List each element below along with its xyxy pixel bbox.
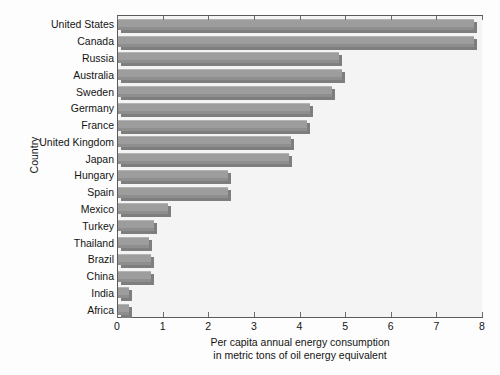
x-tick-mark-top: [391, 16, 392, 20]
bar: [118, 220, 154, 231]
bar: [118, 203, 168, 214]
y-axis-category-label: United Kingdom: [39, 136, 114, 148]
bar: [118, 187, 228, 198]
bar: [118, 271, 151, 282]
x-axis-title-line-1: Per capita annual energy consumption: [117, 336, 483, 349]
y-axis-category-label: Africa: [87, 304, 114, 316]
bar: [118, 120, 307, 131]
bar-shadow: [289, 156, 292, 167]
bar-shadow: [151, 257, 154, 268]
x-tick-mark: [254, 312, 255, 317]
bar-shadow: [121, 214, 170, 217]
y-axis-category-label: Mexico: [81, 203, 114, 215]
x-tick-label: 2: [196, 320, 220, 332]
bar-shadow: [121, 231, 156, 234]
bar: [118, 153, 289, 164]
x-tick-mark: [391, 312, 392, 317]
bar: [118, 170, 228, 181]
x-tick-label: 4: [288, 320, 312, 332]
x-tick-mark-top: [254, 16, 255, 20]
bar: [118, 69, 342, 80]
x-tick-mark-top: [345, 16, 346, 20]
x-tick-label: 6: [379, 320, 403, 332]
bar-shadow: [121, 282, 153, 285]
bar: [118, 86, 332, 97]
bar-shadow: [121, 131, 309, 134]
bar-shadow: [342, 72, 345, 83]
bar-shadow: [129, 307, 132, 318]
bar-shadow: [121, 164, 291, 167]
x-tick-mark: [163, 312, 164, 317]
x-tick-label: 0: [105, 320, 129, 332]
bar-shadow: [149, 240, 152, 251]
x-tick-mark: [436, 312, 437, 317]
bar-shadow: [339, 55, 342, 66]
x-tick-label: 8: [470, 320, 494, 332]
x-tick-label: 3: [242, 320, 266, 332]
bar-shadow: [151, 274, 154, 285]
y-axis-category-label: United States: [51, 18, 114, 30]
x-tick-mark: [117, 312, 118, 317]
y-axis-category-label: India: [91, 287, 114, 299]
bar-shadow: [168, 206, 171, 217]
bar-shadow: [129, 290, 132, 301]
bar-shadow: [474, 39, 477, 50]
bar-shadow: [121, 97, 334, 100]
x-tick-label: 5: [333, 320, 357, 332]
x-tick-mark: [300, 312, 301, 317]
x-axis-title-line-2: in metric tons of oil energy equivalent: [117, 349, 483, 362]
bar-shadow: [332, 89, 335, 100]
bar-shadow: [121, 265, 153, 268]
y-axis-category-label: Spain: [87, 186, 114, 198]
bar-shadow: [121, 248, 151, 251]
x-tick-mark-top: [300, 16, 301, 20]
bar-shadow: [310, 106, 313, 117]
x-tick-mark-top: [117, 16, 118, 20]
y-axis-title: Country: [28, 120, 42, 190]
bar: [118, 52, 339, 63]
bar-shadow: [121, 80, 344, 83]
bar-shadow: [121, 147, 293, 150]
bar-shadow: [121, 30, 476, 33]
y-axis-category-label: Germany: [71, 102, 114, 114]
axis-line-bottom: [117, 317, 483, 318]
bar-shadow: [228, 173, 231, 184]
bar-shadow: [228, 190, 231, 201]
x-axis-title: Per capita annual energy consumption in …: [117, 336, 483, 362]
bar-shadow: [121, 198, 230, 201]
y-axis-category-label: Sweden: [76, 86, 114, 98]
y-axis-category-label: Canada: [77, 35, 114, 47]
x-tick-mark-top: [436, 16, 437, 20]
x-tick-mark-top: [482, 16, 483, 20]
bar: [118, 36, 474, 47]
bar-shadow: [121, 47, 476, 50]
x-tick-label: 7: [424, 320, 448, 332]
bar: [118, 254, 151, 265]
bar-shadow: [121, 181, 230, 184]
bar: [118, 287, 129, 298]
y-axis-category-label: Brazil: [88, 253, 114, 265]
bar: [118, 304, 129, 315]
y-axis-category-label: Australia: [73, 69, 114, 81]
y-axis-category-label: China: [87, 270, 114, 282]
y-axis-category-label: France: [81, 119, 114, 131]
x-tick-mark-top: [163, 16, 164, 20]
bar-shadow: [154, 223, 157, 234]
y-axis-category-label: Russia: [82, 52, 114, 64]
bar-shadow: [121, 63, 341, 66]
bar: [118, 103, 310, 114]
y-axis-category-label: Hungary: [74, 169, 114, 181]
y-axis-category-label: Turkey: [82, 220, 114, 232]
x-tick-mark: [482, 312, 483, 317]
bar: [118, 19, 474, 30]
bar-shadow: [121, 114, 312, 117]
bar-shadow: [307, 123, 310, 134]
y-axis-category-label: Thailand: [74, 237, 114, 249]
bar-shadow: [291, 139, 294, 150]
x-tick-mark-top: [208, 16, 209, 20]
x-tick-label: 1: [151, 320, 175, 332]
x-tick-mark: [208, 312, 209, 317]
bar-chart: 012345678 United StatesCanadaRussiaAustr…: [0, 0, 500, 375]
y-axis-category-label: Japan: [85, 153, 114, 165]
bar-shadow: [474, 22, 477, 33]
